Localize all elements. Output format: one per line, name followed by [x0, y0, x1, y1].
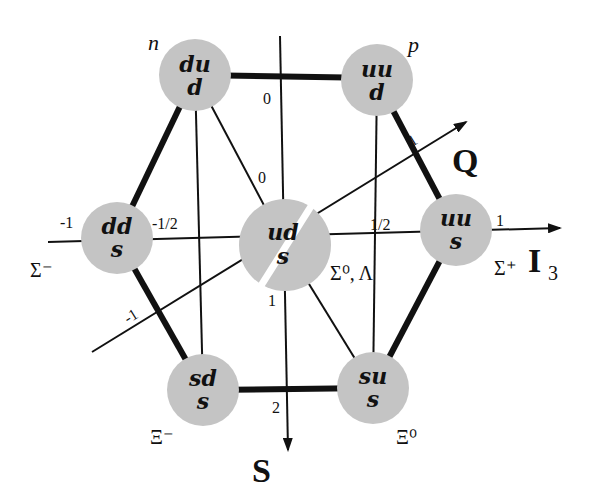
i3-tick-half: 1/2	[370, 216, 390, 233]
s-tick-2: 2	[272, 399, 280, 416]
svg-text:d: d	[187, 74, 202, 100]
svg-text:ud: ud	[267, 219, 298, 245]
label-sigma-plus: Σ⁺	[494, 257, 517, 279]
s-tick-1: 1	[268, 292, 276, 309]
svg-text:d: d	[369, 79, 384, 105]
node-n: du d	[159, 39, 231, 111]
label-xi-zero: Ξ⁰	[396, 426, 417, 448]
label-xi-minus: Ξ⁻	[150, 426, 174, 448]
node-p: uu d	[341, 44, 413, 116]
node-sigma-plus: uu s	[420, 194, 492, 266]
label-sigma0-lambda: Σ⁰, Λ	[330, 262, 374, 284]
node-xi-zero: su s	[337, 352, 409, 424]
svg-text:s: s	[196, 388, 209, 414]
i3-axis-label: I	[528, 242, 541, 279]
i3-tick-neg-half: -1/2	[152, 215, 178, 232]
svg-text:s: s	[366, 386, 379, 412]
label-p: p	[406, 32, 419, 57]
label-n: n	[148, 30, 159, 55]
node-sigma-minus: dd s	[81, 202, 153, 274]
q-axis-label: Q	[452, 142, 478, 179]
node-xi-minus: sd s	[167, 354, 239, 426]
label-sigma-minus: Σ⁻	[30, 259, 53, 281]
svg-text:s: s	[110, 236, 123, 262]
q-tick-0: 0	[258, 169, 266, 186]
s-axis-label: S	[252, 452, 271, 489]
baryon-octet-diagram: du d uu d dd s ud s uu s sd s su s n p Σ…	[0, 0, 600, 490]
s-tick-0: 0	[263, 90, 271, 107]
svg-text:s: s	[276, 243, 289, 269]
i3-axis-subscript: 3	[548, 262, 558, 284]
i3-tick-neg1: -1	[60, 214, 73, 231]
svg-text:s: s	[449, 228, 462, 254]
q-tick-1: 1	[405, 131, 421, 150]
i3-tick-1: 1	[496, 212, 504, 229]
node-sigma0-lambda: ud s	[239, 192, 331, 300]
